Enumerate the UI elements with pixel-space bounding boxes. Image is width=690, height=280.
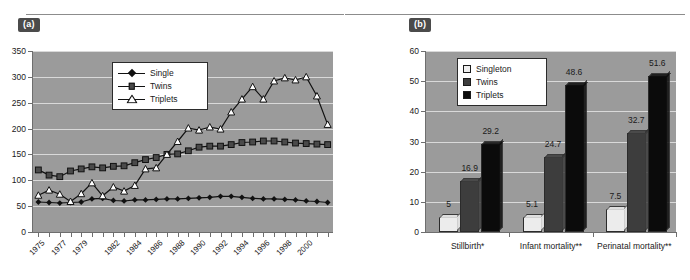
bar-singleton[interactable]: 5.1: [523, 217, 542, 232]
x-tick-mark: [156, 233, 157, 237]
y-tick-mark: [28, 232, 32, 233]
bar-triplets[interactable]: 29.2: [481, 144, 500, 232]
x-tick-mark: [285, 233, 286, 237]
twins-swatch-icon: [463, 78, 471, 86]
legend-item-triplets-bar: Triplets: [463, 89, 539, 101]
bar-triplets[interactable]: 51.6: [648, 76, 667, 232]
y-axis-line: [425, 51, 426, 233]
bar-value-label: 7.5: [609, 192, 621, 201]
x-tick-label: 1990: [189, 239, 207, 257]
category-divider: [509, 232, 510, 237]
y-tick-mark: [28, 129, 32, 130]
bar-value-label: 29.2: [482, 127, 499, 136]
x-tick-label: 1982: [104, 239, 122, 257]
bar-side-face: [666, 71, 670, 231]
y-tick-mark: [28, 51, 32, 52]
legend-item-singleton: Singleton: [463, 63, 539, 75]
y-tick-mark: [28, 154, 32, 155]
gridline: [33, 51, 333, 52]
x-tick-mark: [242, 233, 243, 237]
x-tick-label: 1988: [168, 239, 186, 257]
x-tick-mark: [306, 233, 307, 237]
y-tick-mark: [421, 81, 425, 82]
gridline: [33, 129, 333, 130]
x-tick-label: 1975: [29, 239, 47, 257]
bar-side-face: [583, 80, 587, 231]
x-tick-mark: [296, 233, 297, 237]
y-tick-label: 40: [395, 107, 419, 116]
gridline: [33, 154, 333, 155]
bar-singleton[interactable]: 7.5: [606, 209, 625, 232]
x-tick-mark: [124, 233, 125, 237]
diamond-marker-icon: [118, 68, 145, 78]
bar-value-label: 24.7: [545, 140, 562, 149]
legend-item-single: Single: [118, 67, 200, 79]
legend-label-triplets: Triplets: [150, 95, 178, 104]
y-tick-label: 150: [0, 150, 26, 159]
x-tick-mark: [317, 233, 318, 237]
square-marker-icon: [118, 81, 145, 91]
bar-twins[interactable]: 24.7: [544, 157, 563, 232]
x-tick-mark: [178, 233, 179, 237]
y-tick-mark: [28, 103, 32, 104]
bar-twins[interactable]: 32.7: [627, 133, 646, 232]
singleton-swatch-icon: [463, 65, 471, 73]
x-tick-mark: [263, 233, 264, 237]
x-tick-mark: [135, 233, 136, 237]
gridline: [426, 51, 676, 52]
y-tick-mark: [421, 142, 425, 143]
category-divider: [676, 232, 677, 237]
category-label: Stillbirth*: [426, 242, 509, 251]
y-tick-mark: [28, 77, 32, 78]
x-axis-line: [425, 232, 676, 233]
bar-value-label: 16.9: [461, 164, 478, 173]
y-tick-mark: [28, 206, 32, 207]
triplets-swatch-icon: [463, 91, 471, 99]
x-tick-mark: [38, 233, 39, 237]
x-tick-label: 1977: [50, 239, 68, 257]
gridline: [33, 206, 333, 207]
x-tick-mark: [253, 233, 254, 237]
legend-label-twins: Twins: [150, 82, 172, 91]
x-tick-label: 1979: [71, 239, 89, 257]
y-tick-label: 50: [395, 77, 419, 86]
bar-triplets[interactable]: 48.6: [565, 85, 584, 232]
bar-side-face: [499, 139, 503, 231]
gridline: [33, 180, 333, 181]
y-tick-label: 50: [0, 202, 26, 211]
x-tick-label: 1992: [211, 239, 229, 257]
x-tick-mark: [81, 233, 82, 237]
y-tick-label: 200: [0, 125, 26, 134]
x-tick-mark: [60, 233, 61, 237]
bar-twins[interactable]: 16.9: [460, 181, 479, 232]
legend-label-singleton: Singleton: [476, 65, 511, 74]
y-axis-line: [32, 51, 33, 233]
y-tick-label: 20: [395, 168, 419, 177]
y-tick-label: 0: [395, 228, 419, 237]
x-tick-mark: [167, 233, 168, 237]
y-tick-label: 30: [395, 138, 419, 147]
x-tick-mark: [113, 233, 114, 237]
bar-value-label: 48.6: [566, 68, 583, 77]
y-tick-mark: [421, 51, 425, 52]
legend-label-twins-bar: Twins: [476, 78, 498, 87]
y-tick-mark: [421, 202, 425, 203]
x-tick-mark: [103, 233, 104, 237]
x-tick-mark: [49, 233, 50, 237]
x-tick-mark: [188, 233, 189, 237]
x-tick-mark: [199, 233, 200, 237]
x-tick-mark: [231, 233, 232, 237]
x-tick-label: 1986: [146, 239, 164, 257]
category-divider: [593, 232, 594, 237]
y-tick-label: 10: [395, 198, 419, 207]
bar-value-label: 5: [446, 200, 451, 209]
legend-item-triplets: Triplets: [118, 93, 200, 105]
y-tick-label: 250: [0, 99, 26, 108]
x-tick-label: 1994: [232, 239, 250, 257]
bar-chart-legend: Singleton Twins Triplets: [457, 58, 547, 106]
x-tick-label: 2000: [296, 239, 314, 257]
y-tick-mark: [421, 232, 425, 233]
y-tick-label: 100: [0, 176, 26, 185]
bar-singleton[interactable]: 5: [439, 217, 458, 232]
panel-a: (a) 050100150200250300350197519771979198…: [0, 0, 345, 280]
